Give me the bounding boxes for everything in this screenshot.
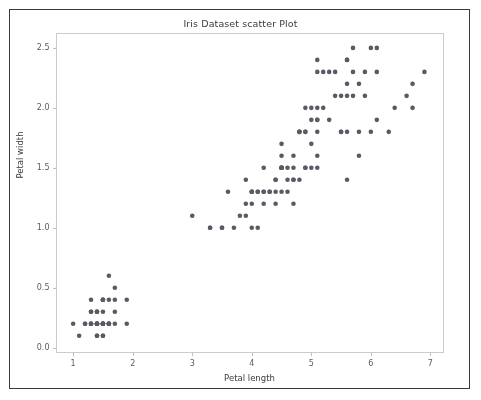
x-axis-label: Petal length [56,373,443,383]
x-tick-label: 3 [180,359,204,368]
x-tick-label: 5 [299,359,323,368]
y-tick-label: 2.0 [26,103,50,112]
x-tick-label: 1 [61,359,85,368]
y-tick-label: 0.0 [26,343,50,352]
x-tick-label: 2 [121,359,145,368]
y-tick-label: 1.5 [26,163,50,172]
x-tick-label: 7 [418,359,442,368]
y-tick-label: 1.0 [26,223,50,232]
scatter-plot-canvas [0,0,481,400]
y-axis-label: Petal width [15,95,25,215]
x-tick-label: 4 [240,359,264,368]
x-tick-label: 6 [359,359,383,368]
chart-title: Iris Dataset scatter Plot [0,18,481,29]
y-tick-label: 2.5 [26,43,50,52]
y-tick-label: 0.5 [26,283,50,292]
